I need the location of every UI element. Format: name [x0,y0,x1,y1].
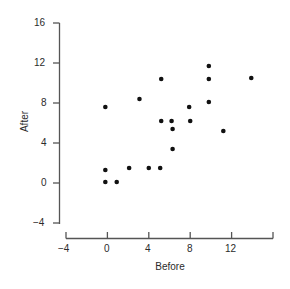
data-point [114,180,119,185]
data-point [188,119,193,124]
data-point [159,119,164,124]
data-point [221,129,226,134]
data-point [249,76,254,81]
data-point [207,100,212,105]
x-tick-label-4: 4 [145,243,151,254]
data-point [127,166,132,171]
y-tick-label-4: 4 [41,137,47,148]
y-axis-title: After [19,100,30,144]
data-point [187,105,192,110]
x-tick-label-neg4: −4 [58,243,69,254]
y-tick-label-8: 8 [41,97,47,108]
data-point [207,64,212,69]
data-point [159,77,164,82]
y-tick-label-neg4: −4 [33,217,44,228]
scatter-plot-figure: 16 12 8 4 0 −4 −4 0 4 8 12 After Before [0,0,290,289]
x-tick-label-0: 0 [104,243,110,254]
x-tick-label-12: 12 [225,243,236,254]
data-point [170,147,175,152]
data-point [137,97,142,102]
data-point [207,77,212,82]
data-points-layer [103,64,254,185]
data-point [158,166,163,171]
data-point [103,180,108,185]
x-axis-title: Before [130,261,210,272]
data-point [170,127,175,132]
data-point [103,168,108,173]
data-point [147,166,152,171]
y-tick-label-12: 12 [34,57,45,68]
data-point [103,105,108,110]
y-tick-label-16: 16 [34,17,45,28]
data-point [169,119,174,124]
y-tick-label-0: 0 [41,177,47,188]
x-tick-label-8: 8 [187,243,193,254]
